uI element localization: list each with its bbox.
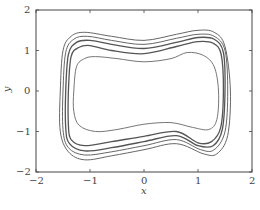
y-tick-label: 0 [24, 86, 30, 96]
x-tick-label: 1 [195, 176, 201, 186]
x-tick-label: −2 [29, 176, 44, 186]
y-tick-label: 2 [24, 5, 30, 15]
x-tick-label: −1 [83, 176, 98, 186]
y-tick-label: −2 [16, 167, 31, 177]
y-tick-label: 1 [24, 46, 30, 56]
trajectory-loop-5-inner [73, 52, 218, 131]
trajectory-loop-1-outer [60, 30, 231, 160]
x-tick-label: 2 [249, 176, 255, 186]
x-axis-label: x [141, 185, 147, 196]
trajectory-loop-2 [62, 34, 227, 155]
y-axis-label: y [1, 87, 12, 93]
trajectory-curves [60, 30, 231, 160]
y-tick-label: −1 [16, 127, 31, 137]
